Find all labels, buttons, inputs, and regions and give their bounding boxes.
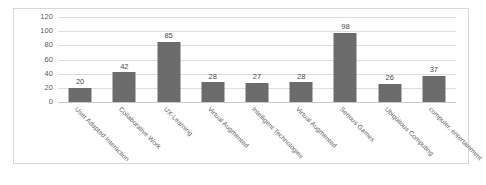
bar-group: 26Ubiquitous Computing	[368, 17, 412, 102]
axis-baseline	[58, 102, 456, 103]
bar-group: 42Collaborative Work	[102, 17, 146, 102]
bar[interactable]	[113, 72, 136, 102]
x-axis-category-label: Collaborative Work	[118, 106, 163, 151]
x-axis-category-label: Intelligent Technologies	[250, 106, 304, 160]
y-axis-tick-label: 60	[44, 56, 53, 64]
chart-frame: 020406080100120 20User Adapted Interacti…	[13, 8, 469, 164]
bar-value-label: 28	[297, 73, 305, 81]
y-axis-tick-label: 120	[40, 13, 53, 21]
bar[interactable]	[157, 42, 180, 102]
bar-group: 27Intelligent Technologies	[235, 17, 279, 102]
bar-group: 37computer, entertainment	[412, 17, 456, 102]
bar-value-label: 26	[385, 74, 393, 82]
x-axis-category-label: Virtual Augmented	[295, 106, 338, 149]
bar-value-label: 28	[209, 73, 217, 81]
bar-group: 28Virtual Augmented	[191, 17, 235, 102]
x-axis-category-label: Virtual Augmented	[206, 106, 249, 149]
y-axis-tick-label: 40	[44, 70, 53, 78]
bar[interactable]	[201, 82, 224, 102]
bar[interactable]	[422, 76, 445, 102]
bar-value-label: 20	[76, 78, 84, 86]
y-axis-tick-label: 0	[49, 98, 53, 106]
bar-group: 85UX-Learning	[146, 17, 190, 102]
x-axis-category-label: UX-Learning	[162, 106, 193, 137]
bar-value-label: 42	[120, 63, 128, 71]
bar-value-label: 98	[341, 23, 349, 31]
bar[interactable]	[245, 83, 268, 102]
bar[interactable]	[334, 33, 357, 102]
bar-value-label: 27	[253, 73, 261, 81]
plot-area: 020406080100120 20User Adapted Interacti…	[58, 17, 456, 102]
bar-group: 20User Adapted Interaction	[58, 17, 102, 102]
bar[interactable]	[290, 82, 313, 102]
x-axis-category-label: Serious Games	[339, 106, 376, 143]
bar-value-label: 85	[164, 32, 172, 40]
x-axis-category-label: computer, entertainment	[427, 106, 483, 162]
y-axis-tick-label: 20	[44, 84, 53, 92]
bar-series: 20User Adapted Interaction42Collaborativ…	[58, 17, 456, 102]
y-axis-tick-label: 80	[44, 42, 53, 50]
x-axis-category-label: Ubiquitous Computing	[383, 106, 434, 157]
y-axis-tick-label: 100	[40, 27, 53, 35]
bar[interactable]	[69, 88, 92, 102]
bar-group: 98Serious Games	[323, 17, 367, 102]
bar[interactable]	[378, 84, 401, 102]
bar-group: 28Virtual Augmented	[279, 17, 323, 102]
bar-value-label: 37	[430, 66, 438, 74]
